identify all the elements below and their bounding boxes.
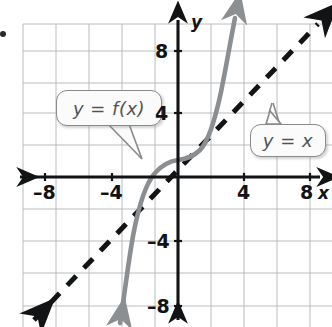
- identity-line-y-equals-x: [34, 24, 318, 320]
- y-tick-label-4: 4: [155, 102, 168, 124]
- y-axis-name: y: [191, 12, 202, 32]
- callout-fx-pointer: [108, 124, 142, 159]
- x-tick-label-4: 4: [237, 181, 250, 203]
- y-tick-label-minus-8: –8: [147, 295, 170, 317]
- x-axis-name: x: [318, 183, 329, 203]
- y-tick-label-minus-4: –4: [147, 230, 170, 252]
- x-tick-label-minus-8: –8: [33, 181, 56, 203]
- callout-label-y-equals-x: y = x: [250, 124, 326, 157]
- y-tick-label-8: 8: [155, 40, 168, 62]
- graph-screenshot: y = f(x) y = x –8 –4 4 8 8 4 –4 –8 x y: [0, 0, 332, 327]
- x-tick-label-8: 8: [300, 181, 313, 203]
- x-tick-label-minus-4: –4: [100, 181, 123, 203]
- callout-label-f-of-x: y = f(x): [56, 90, 162, 126]
